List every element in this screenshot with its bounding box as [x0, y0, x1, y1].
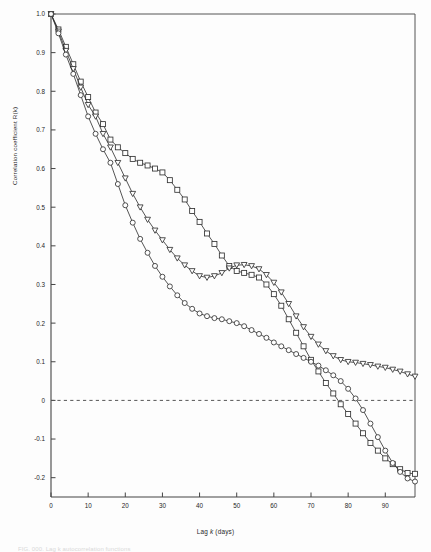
y-tick-label: 0.8: [36, 88, 45, 95]
data-marker-triangle: [93, 114, 99, 119]
data-marker-triangle: [286, 302, 292, 307]
x-tick-label: 90: [382, 502, 390, 509]
x-tick-label: 80: [345, 502, 353, 509]
data-marker-triangle: [182, 263, 188, 268]
data-marker-square: [301, 344, 306, 349]
data-marker-triangle: [234, 263, 240, 268]
data-marker-triangle: [412, 374, 418, 379]
data-marker-triangle: [219, 271, 225, 276]
y-axis-label: Correlation coefficient R(k): [3, 0, 17, 185]
data-marker-circle: [138, 236, 143, 241]
data-marker-square: [153, 166, 158, 171]
data-marker-circle: [338, 379, 343, 384]
series-circle: [49, 12, 418, 485]
y-tick-label: 0.3: [36, 281, 45, 288]
data-marker-square: [86, 95, 91, 100]
data-marker-triangle: [330, 354, 336, 359]
data-marker-square: [130, 156, 135, 161]
data-marker-square: [242, 270, 247, 275]
y-tick-label: 0.9: [36, 49, 45, 56]
data-marker-circle: [219, 317, 224, 322]
data-marker-square: [286, 317, 291, 322]
data-marker-square: [249, 272, 254, 277]
data-marker-square: [257, 275, 262, 280]
data-marker-circle: [212, 316, 217, 321]
y-tick-label: 0.2: [36, 320, 45, 327]
data-marker-square: [205, 231, 210, 236]
data-marker-triangle: [278, 290, 284, 295]
data-marker-circle: [368, 421, 373, 426]
x-tick-label: 20: [122, 502, 130, 509]
data-marker-square: [145, 163, 150, 168]
y-tick-label: -0.1: [34, 435, 45, 442]
x-tick-label: 30: [159, 502, 167, 509]
data-marker-triangle: [397, 369, 403, 374]
figure-panel: -0.2-0.100.10.20.30.40.50.60.70.80.91.00…: [0, 0, 431, 552]
x-tick-label: 70: [307, 502, 315, 509]
data-marker-circle: [323, 368, 328, 373]
data-marker-square: [197, 219, 202, 224]
data-marker-circle: [145, 250, 150, 255]
data-marker-square: [182, 197, 187, 202]
data-marker-circle: [197, 311, 202, 316]
data-marker-triangle: [293, 314, 299, 319]
data-marker-circle: [56, 31, 61, 36]
series-triangle: [48, 12, 418, 380]
data-marker-square: [138, 160, 143, 165]
data-marker-circle: [375, 435, 380, 440]
data-marker-circle: [301, 355, 306, 360]
data-marker-circle: [257, 331, 262, 336]
y-axis-label-text: Correlation coefficient R(k): [11, 107, 18, 185]
data-marker-circle: [271, 340, 276, 345]
x-axis-label-post: (days): [213, 528, 234, 535]
data-marker-circle: [86, 114, 91, 119]
data-marker-square: [353, 421, 358, 426]
data-marker-square: [115, 145, 120, 150]
data-marker-triangle: [249, 264, 255, 269]
series-square: [49, 12, 418, 477]
data-marker-circle: [405, 476, 410, 481]
data-marker-circle: [63, 52, 68, 57]
data-marker-circle: [93, 131, 98, 136]
data-marker-square: [375, 448, 380, 453]
data-marker-circle: [413, 479, 418, 484]
data-marker-circle: [361, 408, 366, 413]
correlation-chart: -0.2-0.100.10.20.30.40.50.60.70.80.91.00…: [0, 0, 431, 552]
data-marker-square: [361, 431, 366, 436]
data-marker-circle: [242, 324, 247, 329]
data-marker-circle: [190, 306, 195, 311]
x-tick-label: 60: [270, 502, 278, 509]
y-tick-label: -0.2: [34, 474, 45, 481]
data-marker-square: [368, 440, 373, 445]
data-marker-circle: [383, 448, 388, 453]
data-marker-square: [346, 411, 351, 416]
data-marker-circle: [309, 359, 314, 364]
data-marker-square: [212, 241, 217, 246]
y-tick-label: 0.4: [36, 242, 45, 249]
data-marker-square: [338, 402, 343, 407]
data-marker-square: [234, 268, 239, 273]
x-tick-label: 10: [85, 502, 93, 509]
x-axis-label: Lag k (days): [0, 528, 431, 535]
data-marker-triangle: [130, 191, 136, 196]
data-marker-square: [323, 381, 328, 386]
x-axis-label-pre: Lag: [197, 528, 210, 535]
data-marker-circle: [398, 469, 403, 474]
data-marker-circle: [205, 314, 210, 319]
data-marker-square: [294, 330, 299, 335]
data-marker-square: [160, 170, 165, 175]
data-marker-circle: [78, 93, 83, 98]
data-marker-square: [190, 209, 195, 214]
data-marker-circle: [294, 352, 299, 357]
data-marker-circle: [153, 263, 158, 268]
figure-caption: FIG. 000. Lag k autocorrelation function…: [18, 546, 418, 552]
data-marker-triangle: [115, 160, 121, 165]
data-marker-circle: [264, 335, 269, 340]
data-marker-square: [101, 122, 106, 127]
data-marker-circle: [115, 182, 120, 187]
data-marker-square: [383, 456, 388, 461]
data-marker-square: [175, 187, 180, 192]
data-marker-circle: [108, 160, 113, 165]
data-marker-square: [219, 253, 224, 258]
data-marker-circle: [130, 220, 135, 225]
